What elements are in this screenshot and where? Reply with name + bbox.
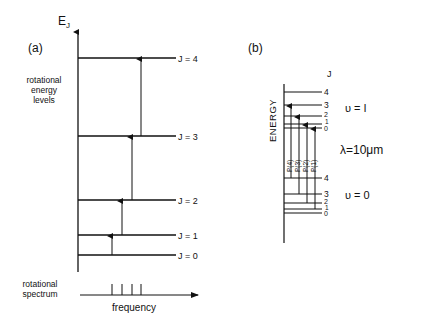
spectrum-caption-2: spectrum [23,289,58,299]
panel-a: EJ (a) rotational energy levels J = 4 J … [23,14,198,313]
svg-text:P(2): P(2) [302,160,310,172]
svg-text:3: 3 [324,100,329,110]
levels-caption-2: energy [31,85,58,95]
p-line-labels: P(4) P(3) P(2) P(1) [286,160,318,172]
upper-level-labels: 4 3 2 1 0 [324,87,329,132]
svg-text:J = 2: J = 2 [178,196,198,206]
spectrum-caption-1: rotational [23,279,58,289]
svg-text:J = 0: J = 0 [178,251,198,261]
lower-state-label: υ = 0 [345,189,370,201]
svg-text:P(4): P(4) [286,160,294,172]
energy-level-j3: J = 3 [78,132,198,142]
frequency-label: frequency [112,302,156,313]
energy-level-j0: J = 0 [78,251,198,261]
j-header: J [327,69,332,79]
spectrum-lines [112,284,141,295]
upper-levels [284,92,322,128]
svg-text:1: 1 [325,118,329,125]
energy-axis-label: EJ [58,14,70,30]
energy-level-j1: J = 1 [78,231,198,241]
svg-text:0: 0 [324,125,328,132]
svg-text:2: 2 [324,111,328,118]
svg-text:4: 4 [324,87,329,97]
svg-text:J = 3: J = 3 [178,132,198,142]
energy-label: ENERGY [267,99,278,142]
svg-text:J = 1: J = 1 [178,231,198,241]
lower-level-labels: 4 3 2 1 0 [324,173,329,217]
svg-text:P(3): P(3) [294,160,302,172]
panel-a-label: (a) [28,41,43,55]
diagram-canvas: EJ (a) rotational energy levels J = 4 J … [0,0,446,329]
panel-b-label: (b) [248,41,263,55]
energy-level-j4: J = 4 [78,54,198,64]
svg-text:P(1): P(1) [310,160,318,172]
energy-level-j2: J = 2 [78,196,198,206]
upper-state-label: υ = I [345,102,367,114]
wavelength-label: λ=10μm [340,143,383,157]
levels-caption-1: rotational [27,75,62,85]
panel-b: (b) ENERGY J 4 3 2 1 0 υ = I λ=10μm [248,0,383,243]
lower-levels [284,178,322,213]
svg-text:J = 4: J = 4 [178,54,198,64]
svg-text:0: 0 [324,210,328,217]
svg-text:4: 4 [324,173,329,183]
levels-caption-3: levels [33,95,55,105]
